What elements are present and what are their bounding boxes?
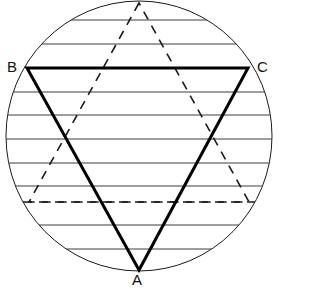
- geometry-figure: B C A: [0, 0, 319, 290]
- vertex-label-a: A: [132, 272, 142, 287]
- outer-circle: [6, 1, 272, 271]
- vertex-label-c: C: [257, 59, 268, 74]
- horizontal-chords: [6, 20, 272, 249]
- triangle-ABC: [27, 68, 248, 270]
- figure-canvas: [0, 0, 319, 290]
- vertex-label-b: B: [7, 59, 17, 74]
- dashed-inverted-triangle: [29, 3, 249, 202]
